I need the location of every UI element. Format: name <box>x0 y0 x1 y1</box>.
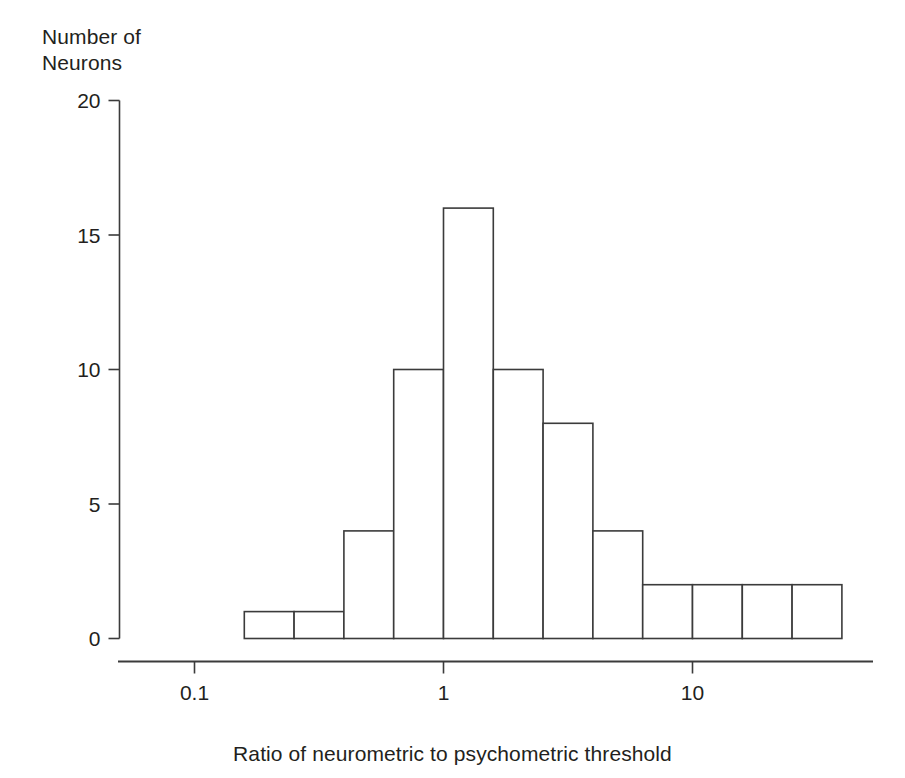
histogram-bar <box>792 585 842 639</box>
y-axis: 05101520 <box>77 89 119 650</box>
histogram-bar <box>294 612 344 639</box>
histogram-bar <box>742 585 792 639</box>
y-axis-tick-label: 20 <box>77 89 100 112</box>
y-axis-tick-label: 5 <box>89 493 101 516</box>
x-axis-tick-label: 1 <box>438 681 450 704</box>
histogram-bar <box>593 531 643 639</box>
x-axis-tick-label: 0.1 <box>180 681 209 704</box>
y-axis-tick-label: 10 <box>77 358 100 381</box>
histogram-bar <box>394 370 444 639</box>
histogram-bar <box>543 423 593 638</box>
histogram-bar <box>444 208 494 638</box>
histogram-bar <box>693 585 743 639</box>
histogram-figure: Number of Neurons Ratio of neurometric t… <box>0 0 905 778</box>
y-axis-tick-label: 0 <box>89 627 101 650</box>
x-axis: 0.1110 <box>118 662 873 704</box>
x-axis-tick-label: 10 <box>681 681 704 704</box>
plot-area: 05101520 0.1110 <box>0 0 905 778</box>
histogram-bar <box>244 612 294 639</box>
histogram-bar <box>643 585 693 639</box>
histogram-bars <box>244 208 842 638</box>
histogram-bar <box>344 531 394 639</box>
y-axis-tick-label: 15 <box>77 224 100 247</box>
histogram-bar <box>493 370 543 639</box>
